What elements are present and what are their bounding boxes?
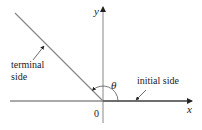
initial-side-label: initial side [137, 75, 180, 86]
y-axis-label: y [93, 5, 99, 17]
angle-diagram: y x 0 θ terminal side initial side [0, 0, 202, 130]
origin-label: 0 [94, 108, 99, 119]
terminal-side-ray [15, 13, 103, 101]
terminal-side-label-line1: terminal [11, 59, 45, 70]
theta-label: θ [111, 79, 117, 91]
initial-side-pointer [136, 90, 146, 100]
terminal-side-label-line2: side [11, 71, 28, 82]
x-axis-label: x [186, 103, 192, 115]
terminal-side-pointer [33, 46, 44, 60]
